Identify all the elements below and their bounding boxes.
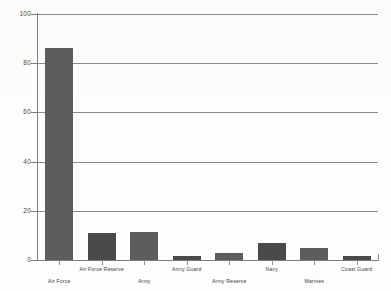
- x-axis-label-army: Army: [138, 279, 151, 284]
- y-tick-label-100: 100: [3, 11, 31, 18]
- x-axis-end-tick: [378, 254, 379, 261]
- x-tick-mark-1: [102, 260, 103, 265]
- bar-chart: 100 80 60 40 20 0 Air ForceAir Force Res…: [0, 0, 391, 291]
- x-axis-label-marines: Marines: [304, 279, 324, 284]
- bar-air-force: [45, 48, 73, 260]
- bar-army-reserve: [215, 253, 243, 260]
- bar-air-force-reserve: [88, 233, 116, 260]
- y-tick-label-80: 80: [3, 60, 31, 67]
- bar-navy: [258, 243, 286, 260]
- x-axis-label-army-reserve: Army Reserve: [212, 279, 247, 284]
- y-tick-label-0: 0: [3, 257, 31, 264]
- bars-layer: [38, 14, 378, 260]
- x-tick-mark-7: [357, 260, 358, 265]
- x-axis-label-army-guard: Army Guard: [172, 267, 201, 272]
- y-tick-mark-60: [31, 112, 37, 113]
- x-axis-label-navy: Navy: [266, 267, 278, 272]
- x-tick-mark-0: [59, 260, 60, 265]
- y-tick-mark-100: [31, 14, 37, 15]
- bar-army: [130, 232, 158, 260]
- x-tick-mark-5: [272, 260, 273, 265]
- x-axis-label-air-force-reserve: Air Force Reserve: [80, 267, 124, 272]
- y-tick-label-60: 60: [3, 109, 31, 116]
- y-tick-label-40: 40: [3, 159, 31, 166]
- y-tick-mark-20: [31, 211, 37, 212]
- y-tick-mark-80: [31, 63, 37, 64]
- x-tick-mark-4: [229, 260, 230, 265]
- y-tick-label-20: 20: [3, 208, 31, 215]
- y-tick-mark-40: [31, 162, 37, 163]
- x-axis-label-coast-guard: Coast Guard: [341, 267, 372, 272]
- x-tick-mark-6: [314, 260, 315, 265]
- bar-marines: [300, 248, 328, 260]
- x-tick-mark-2: [144, 260, 145, 265]
- x-axis-line: [37, 260, 379, 261]
- x-tick-mark-3: [187, 260, 188, 265]
- x-axis-label-air-force: Air Force: [48, 279, 70, 284]
- y-tick-mark-0: [31, 260, 37, 261]
